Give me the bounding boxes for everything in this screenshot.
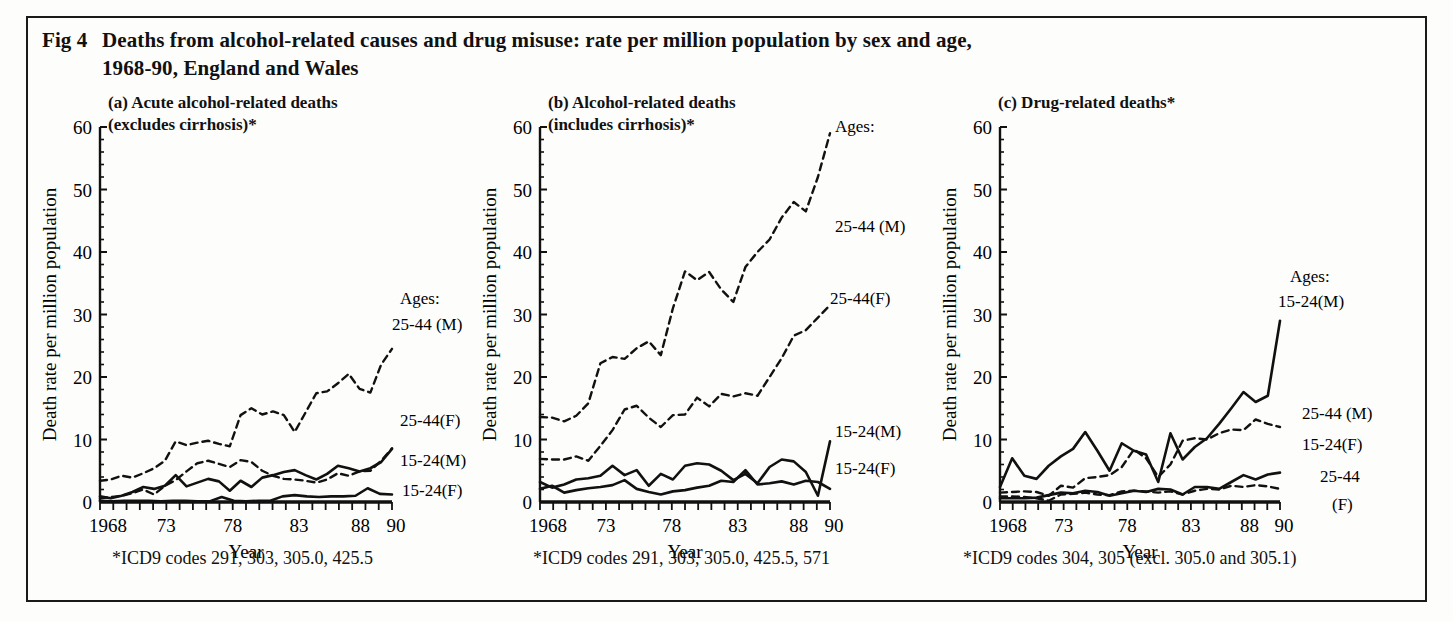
x-tick-label: 88 (789, 515, 808, 536)
x-tick-label: 88 (351, 515, 370, 536)
series-line-3 (100, 449, 392, 498)
y-tick-label: 0 (983, 492, 993, 513)
y-tick-label: 60 (973, 117, 992, 138)
y-tick-label: 30 (73, 305, 92, 326)
x-tick-label: 90 (387, 515, 406, 536)
figure-title-line1: Deaths from alcohol-related causes and d… (102, 28, 972, 52)
y-tick-label: 10 (973, 430, 992, 451)
series-label-s2: 25-44(F) (830, 289, 890, 308)
x-tick-label: 1968 (89, 515, 127, 536)
y-axis-title: Death rate per million population (479, 187, 500, 441)
series-label-s1: 25-44 (M) (392, 315, 462, 334)
figure-page: Fig 4Deaths from alcohol-related causes … (0, 0, 1453, 621)
x-tick-label: 90 (1275, 515, 1294, 536)
panel-a-svg: 010203040506019687378838890YearDeath rat… (40, 92, 510, 562)
footnote-panel-b: *ICD9 codes 291, 303, 305.0, 425.5, 571 (533, 548, 830, 569)
series-line-4 (540, 470, 830, 494)
x-tick-label: 88 (1240, 515, 1259, 536)
figure-title-line2: 1968-90, England and Wales (102, 54, 1372, 82)
series-label-ages: Ages: (1290, 267, 1330, 286)
series-line-2 (100, 448, 392, 498)
series-line-4 (100, 488, 392, 501)
x-tick-label: 83 (290, 515, 309, 536)
x-tick-label: 1968 (989, 515, 1027, 536)
y-tick-label: 40 (973, 242, 992, 263)
panel-b: (b) Alcohol-related deaths (includes cir… (490, 92, 940, 592)
y-tick-label: 50 (973, 180, 992, 201)
y-axis-title: Death rate per million population (39, 187, 60, 441)
y-tick-label: 30 (973, 305, 992, 326)
figure-title: Fig 4Deaths from alcohol-related causes … (42, 26, 1372, 82)
series-label-s3: 15-24(M) (835, 422, 901, 441)
x-tick-label: 83 (728, 515, 747, 536)
y-tick-label: 20 (973, 367, 992, 388)
y-tick-label: 10 (73, 430, 92, 451)
series-label-s1: 15-24(M) (1278, 292, 1344, 311)
series-label-s4b: (F) (1332, 495, 1353, 514)
footnote-panel-c: *ICD9 codes 304, 305 (excl. 305.0 and 30… (963, 548, 1296, 569)
y-tick-label: 60 (73, 117, 92, 138)
y-tick-label: 0 (523, 492, 533, 513)
series-line-3 (540, 441, 830, 495)
y-tick-label: 0 (83, 492, 93, 513)
x-tick-label: 73 (596, 515, 615, 536)
series-line-1 (1000, 321, 1280, 487)
x-tick-label: 78 (1118, 515, 1137, 536)
series-label-s3: 15-24(F) (1302, 435, 1362, 454)
y-tick-label: 30 (513, 305, 532, 326)
y-tick-label: 20 (73, 367, 92, 388)
series-line-2 (540, 305, 830, 461)
panel-a: (a) Acute alcohol-related deaths (exclud… (40, 92, 510, 592)
y-tick-label: 50 (73, 180, 92, 201)
series-line-2 (1000, 420, 1280, 496)
series-line-1 (540, 133, 830, 421)
series-label-s4a: 25-44 (1320, 467, 1360, 486)
x-tick-label: 73 (1054, 515, 1073, 536)
y-tick-label: 10 (513, 430, 532, 451)
y-tick-label: 40 (513, 242, 532, 263)
x-tick-label: 78 (662, 515, 681, 536)
panel-c-plot: 010203040506019687378838890YearDeath rat… (940, 92, 1430, 562)
x-tick-label: 73 (157, 515, 176, 536)
y-tick-label: 50 (513, 180, 532, 201)
x-tick-label: 1968 (529, 515, 567, 536)
panel-a-plot: 010203040506019687378838890YearDeath rat… (40, 92, 510, 562)
series-label-s2: 25-44 (M) (1302, 404, 1372, 423)
series-label-s2: 25-44(F) (400, 411, 460, 430)
panel-c-svg: 010203040506019687378838890YearDeath rat… (940, 92, 1430, 562)
series-label-ages: Ages: (400, 289, 440, 308)
x-tick-label: 78 (223, 515, 242, 536)
panel-b-svg: 010203040506019687378838890YearDeath rat… (490, 92, 940, 562)
footnote-panel-a: *ICD9 codes 291, 303, 305.0, 425.5 (112, 548, 373, 569)
figure-label: Fig 4 (42, 26, 102, 54)
series-label-s3: 15-24(M) (400, 451, 466, 470)
series-label-s1: 25-44 (M) (835, 217, 905, 236)
series-label-s4: 15-24(F) (835, 459, 895, 478)
series-label-s4: 15-24(F) (402, 481, 462, 500)
x-tick-label: 83 (1181, 515, 1200, 536)
panel-b-plot: 010203040506019687378838890YearDeath rat… (490, 92, 940, 562)
panel-c: (c) Drug-related deaths* 010203040506019… (940, 92, 1430, 592)
y-tick-label: 20 (513, 367, 532, 388)
y-axis-title: Death rate per million population (939, 187, 960, 441)
series-label-ages: Ages: (835, 117, 875, 136)
y-tick-label: 40 (73, 242, 92, 263)
y-tick-label: 60 (513, 117, 532, 138)
x-tick-label: 90 (825, 515, 844, 536)
